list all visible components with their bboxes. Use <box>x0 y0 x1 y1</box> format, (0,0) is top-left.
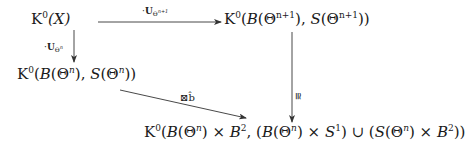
node-k0-b-s-theta-n-plus-1: K0(B(Θn+1), S(Θn+1)) <box>224 10 370 28</box>
node-k0-bottom-pair: K0(B(Θn) × B2, (B(Θn) × S1) ∪ (S(Θn) × B… <box>144 123 465 141</box>
label-right-arrow-iso: ≅ <box>293 92 304 100</box>
node-k0-b-s-theta-n: K0(B(Θn), S(Θn)) <box>17 65 136 83</box>
label-diagonal-arrow: ⊠b̂ <box>180 93 195 103</box>
label-left-arrow: ·UΘn <box>44 42 63 52</box>
node-k0-x: K0(X) <box>31 10 70 28</box>
label-top-arrow: ·UΘn+1 <box>142 6 168 16</box>
